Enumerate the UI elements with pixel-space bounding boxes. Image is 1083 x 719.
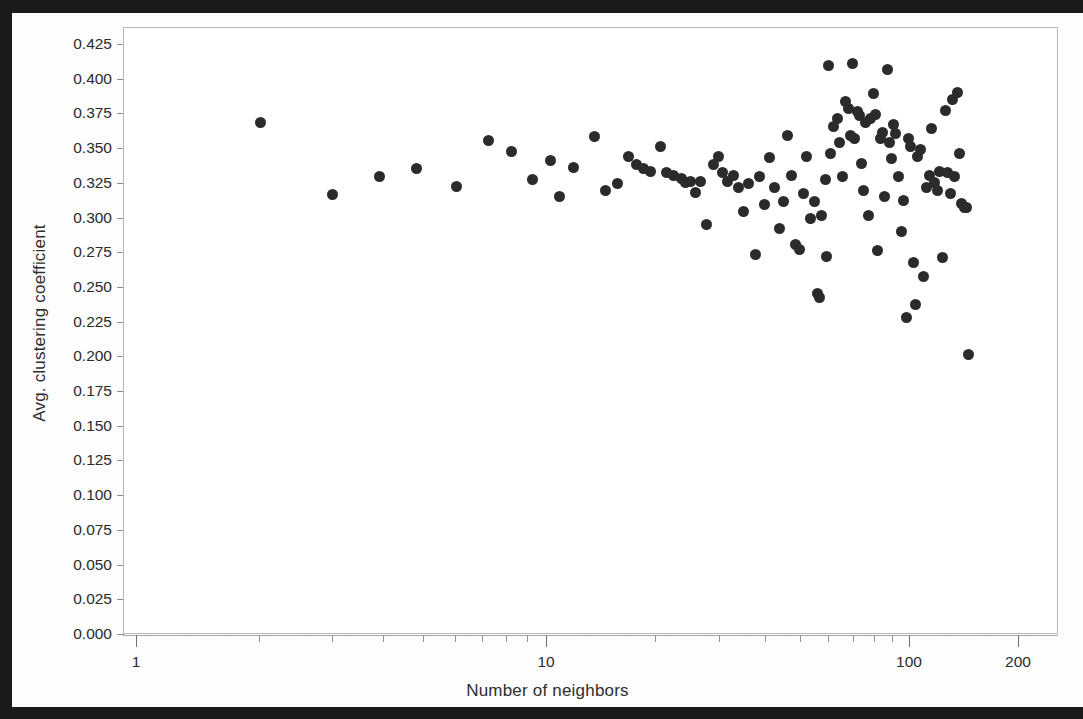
data-point — [685, 176, 696, 187]
data-point — [847, 58, 858, 69]
x-tick-label: 100 — [896, 653, 922, 671]
data-point — [886, 153, 897, 164]
y-tick-label: 0.325 — [73, 174, 112, 192]
data-point — [832, 113, 843, 124]
data-point — [837, 171, 848, 182]
data-point — [949, 171, 960, 182]
data-point — [879, 191, 890, 202]
data-point — [901, 312, 912, 323]
data-point — [945, 188, 956, 199]
x-tick-mark-minor — [828, 635, 829, 642]
data-point — [255, 117, 266, 128]
data-point — [774, 223, 785, 234]
data-point — [764, 152, 775, 163]
x-tick-label: 10 — [537, 653, 554, 671]
data-point — [868, 88, 879, 99]
x-tick-mark-minor — [853, 635, 854, 642]
data-point — [820, 174, 831, 185]
data-point — [738, 206, 749, 217]
data-point — [695, 176, 706, 187]
data-point — [816, 210, 827, 221]
y-tick-label: 0.200 — [73, 347, 112, 365]
data-point — [794, 244, 805, 255]
x-tick-mark-major — [136, 635, 137, 647]
x-tick-mark-minor — [332, 635, 333, 642]
x-tick-mark-minor — [455, 635, 456, 642]
data-point — [743, 178, 754, 189]
y-tick-label: 0.300 — [73, 209, 112, 227]
x-tick-mark-minor — [719, 635, 720, 642]
y-tick-label: 0.400 — [73, 70, 112, 88]
x-tick-mark-minor — [765, 635, 766, 642]
x-tick-mark-minor — [655, 635, 656, 642]
data-point — [798, 188, 809, 199]
data-point — [856, 158, 867, 169]
y-tick-label: 0.225 — [73, 313, 112, 331]
data-point — [877, 127, 888, 138]
y-tick-label: 0.075 — [73, 521, 112, 539]
data-point — [937, 252, 948, 263]
data-point — [327, 189, 338, 200]
x-tick-mark-minor — [383, 635, 384, 642]
data-point — [754, 171, 765, 182]
x-tick-mark-major — [909, 635, 910, 647]
x-tick-mark-minor — [892, 635, 893, 642]
data-point — [893, 171, 904, 182]
x-tick-label: 200 — [1005, 653, 1031, 671]
data-point — [600, 185, 611, 196]
y-tick-label: 0.050 — [73, 556, 112, 574]
y-tick-label: 0.425 — [73, 35, 112, 53]
data-point — [759, 199, 770, 210]
data-point — [786, 170, 797, 181]
data-point — [890, 128, 901, 139]
y-tick-label: 0.100 — [73, 486, 112, 504]
data-point — [483, 135, 494, 146]
data-point — [589, 131, 600, 142]
x-tick-mark-minor — [482, 635, 483, 642]
x-tick-mark-minor — [259, 635, 260, 642]
data-point — [374, 171, 385, 182]
data-point — [713, 151, 724, 162]
data-point — [701, 219, 712, 230]
data-point — [750, 249, 761, 260]
data-point — [728, 170, 739, 181]
y-tick-label: 0.375 — [73, 104, 112, 122]
data-point — [554, 191, 565, 202]
scanned-page-background: Avg. clustering coefficient 0.0000.0250.… — [0, 0, 1083, 719]
data-point — [411, 163, 422, 174]
x-tick-label: 1 — [132, 653, 141, 671]
data-point — [823, 60, 834, 71]
data-point — [506, 146, 517, 157]
y-axis-title: Avg. clustering coefficient — [30, 173, 50, 473]
data-point — [870, 109, 881, 120]
data-point — [926, 123, 937, 134]
data-point — [801, 151, 812, 162]
data-point — [915, 144, 926, 155]
x-tick-mark-minor — [874, 635, 875, 642]
data-point — [882, 64, 893, 75]
x-axis-line — [123, 635, 1058, 636]
data-point — [645, 166, 656, 177]
y-tick-label: 0.350 — [73, 139, 112, 157]
data-point — [612, 178, 623, 189]
data-point — [898, 195, 909, 206]
x-tick-mark-minor — [527, 635, 528, 642]
data-point — [858, 185, 869, 196]
data-point — [872, 245, 883, 256]
data-point — [690, 187, 701, 198]
x-tick-mark-major — [1018, 635, 1019, 647]
data-point — [963, 349, 974, 360]
x-tick-mark-minor — [800, 635, 801, 642]
data-point — [809, 196, 820, 207]
data-point — [940, 105, 951, 116]
plot-area — [123, 27, 1058, 634]
data-point — [568, 162, 579, 173]
data-point — [834, 137, 845, 148]
data-point — [814, 292, 825, 303]
data-point — [896, 226, 907, 237]
data-point — [952, 87, 963, 98]
y-tick-label: 0.150 — [73, 417, 112, 435]
scatter-plot-figure: Avg. clustering coefficient 0.0000.0250.… — [12, 13, 1083, 707]
x-tick-mark-minor — [423, 635, 424, 642]
y-tick-label: 0.000 — [73, 625, 112, 643]
